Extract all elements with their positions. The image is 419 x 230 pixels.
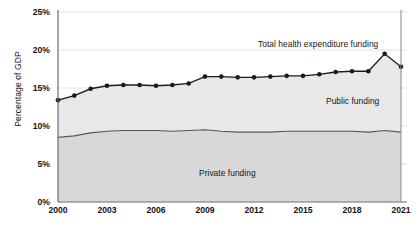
data-point-2009: [203, 74, 208, 79]
data-point-2015: [301, 74, 306, 79]
data-point-2006: [154, 83, 159, 88]
data-point-2020: [382, 52, 387, 57]
data-point-2005: [137, 83, 142, 88]
plot-area: [0, 0, 419, 230]
data-point-2003: [105, 83, 110, 88]
annotation-public-funding: Public funding: [326, 96, 379, 106]
data-point-2018: [350, 69, 355, 74]
data-point-2017: [333, 70, 338, 75]
data-point-2008: [186, 81, 191, 86]
data-point-2012: [252, 75, 257, 80]
annotation-private-funding: Private funding: [199, 168, 256, 178]
figure-health-expenditure-funding: Percentage of GDP 25% 20% 15% 10% 5% 0% …: [0, 0, 419, 230]
data-point-2004: [121, 83, 126, 88]
data-point-2007: [170, 83, 175, 88]
data-point-2013: [268, 74, 273, 79]
data-point-2014: [284, 74, 289, 79]
data-point-2002: [88, 86, 93, 91]
data-point-2016: [317, 72, 322, 77]
data-point-2011: [235, 75, 240, 80]
data-point-2019: [366, 69, 371, 74]
data-point-2010: [219, 74, 224, 79]
annotation-total-health-expenditure-funding: Total health expenditure funding: [258, 39, 378, 49]
area-band-private-funding: [58, 130, 401, 202]
data-point-2001: [72, 93, 77, 98]
